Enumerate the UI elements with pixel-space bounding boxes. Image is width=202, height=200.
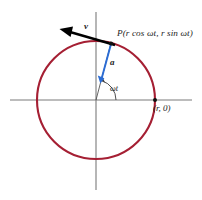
angle-label: ωt [110,85,118,93]
velocity-vector-label: v [84,22,88,31]
point-r0-marker [153,98,157,102]
velocity-vector-arrowhead [60,26,74,37]
x-intercept-label: (r, 0) [153,104,171,113]
acceleration-vector-label: a [110,58,115,67]
point-p-label: P(r cos ωt, r sin ωt) [117,29,193,38]
circular-motion-figure: P(r cos ωt, r sin ωt) v a ωt (r, 0) [0,0,202,200]
velocity-vector-shaft [70,32,115,45]
point-p-marker [109,41,113,45]
point-p-label-text: P(r cos ωt, r sin ωt) [117,28,193,38]
